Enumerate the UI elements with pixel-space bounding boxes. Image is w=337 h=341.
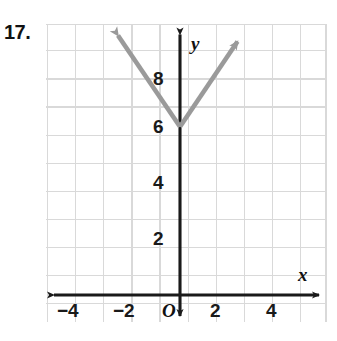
y-tick-label-2: 2	[153, 229, 164, 248]
x-tick-label-minus-2: −2	[113, 301, 135, 320]
y-tick-label-4: 4	[153, 173, 164, 192]
function-curve-absolute-value	[118, 36, 238, 127]
x-tick-label-2: 2	[210, 301, 221, 320]
y-axis-name: y	[191, 34, 199, 53]
y-tick-label-8: 8	[153, 69, 164, 88]
coordinate-graph: 8 6 4 2 −4 −2 2 4 O y x	[46, 24, 327, 322]
problem-number: 17.	[4, 22, 30, 42]
x-tick-label-4: 4	[266, 301, 277, 320]
x-tick-label-minus-4: −4	[57, 301, 79, 320]
origin-label: O	[162, 301, 176, 320]
worksheet-page: 17.	[0, 0, 337, 341]
graph-plot	[46, 24, 327, 322]
x-axis-name: x	[298, 265, 308, 284]
y-tick-label-6: 6	[153, 117, 164, 136]
